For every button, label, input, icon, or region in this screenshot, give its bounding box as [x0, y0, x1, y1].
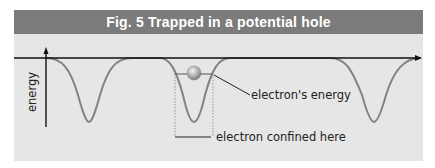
- y-axis-label: energy: [25, 72, 39, 112]
- y-axis-arrowhead: [44, 47, 49, 54]
- x-axis-arrowhead: [415, 55, 422, 61]
- electron-energy-label: electron's energy: [251, 88, 351, 102]
- energy-leader-line: [214, 75, 250, 95]
- potential-curve: [46, 58, 421, 122]
- electron-icon: [187, 66, 201, 80]
- potential-diagram: energy electron's energy electron confin…: [0, 0, 435, 168]
- confined-label: electron confined here: [216, 130, 346, 144]
